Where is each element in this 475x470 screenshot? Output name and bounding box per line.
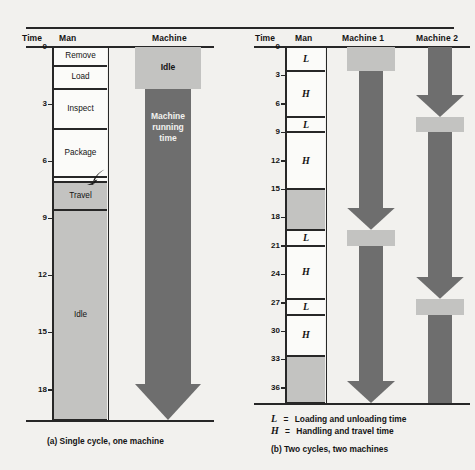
man-segment-label: L (303, 54, 309, 64)
man-segment-label: Inspect (67, 105, 93, 113)
legend-equals-1: = (285, 426, 290, 436)
man-segment: L (287, 47, 326, 71)
axis-tick-label: 6 (254, 99, 280, 108)
machine2-idle-block (416, 117, 464, 132)
axis-tick-label: 9 (254, 127, 280, 136)
man-segment: Travel (54, 182, 108, 210)
panel-a-single-cycle: Time Man Machine 0369121518RemoveLoadIns… (0, 0, 238, 470)
axis-tick-label: 0 (21, 42, 47, 51)
axis-tick-label: 18 (254, 212, 280, 221)
man-segment (287, 189, 326, 230)
axis-tick-label: 9 (21, 213, 47, 222)
machine2-idle-block (416, 299, 464, 315)
panel-a-caption: (a) Single cycle, one machine (47, 436, 164, 446)
axis-tick-label: 24 (254, 269, 280, 278)
axis-tick-label: 12 (21, 270, 47, 279)
axis-tick-label: 21 (254, 241, 280, 250)
man-segment: H (287, 71, 326, 117)
legend-symbol-L: L (271, 413, 277, 424)
machine1-run-shaft (359, 71, 383, 208)
axis-tick-label: 15 (21, 327, 47, 336)
machine1-idle-block (347, 230, 395, 246)
legend-text-1: Handling and travel time (296, 426, 393, 436)
figure-canvas: Time Man Machine 0369121518RemoveLoadIns… (0, 0, 475, 470)
axis-tick-label: 3 (254, 70, 280, 79)
man-segment-label: Travel (69, 192, 91, 200)
axis-tick-label: 3 (21, 99, 47, 108)
machine2-arrowhead (416, 277, 464, 299)
machine2-run-shaft (428, 315, 452, 403)
man-segment-label: Remove (65, 52, 96, 60)
man-segment: Inspect (54, 89, 108, 129)
machine2-run-shaft (428, 47, 452, 95)
man-segment: H (287, 246, 326, 299)
panel-b-plot: 0369121518212427303336LHLHLHLH (238, 0, 475, 470)
man-segment-label: H (302, 267, 310, 277)
man-segment-label: L (303, 302, 309, 312)
panel-b-caption: (b) Two cycles, two machines (271, 444, 388, 454)
man-segment: Idle (54, 210, 108, 420)
man-segment-label: L (303, 233, 309, 243)
man-segment-label: H (302, 89, 310, 99)
axis-tick-label: 27 (254, 298, 280, 307)
axis-tick-label: 33 (254, 354, 280, 363)
man-segment-label: L (303, 120, 309, 130)
machine2-run-shaft (428, 132, 452, 277)
man-segment-label: Load (71, 73, 89, 81)
axis-tick-label: 36 (254, 383, 280, 392)
machine1-arrowhead (347, 381, 395, 403)
axis-tick-label: 0 (254, 42, 280, 51)
man-segment: Load (54, 66, 108, 89)
man-segment: L (287, 299, 326, 315)
panel-b-two-cycles: Time Man Machine 1 Machine 2 03691215182… (238, 0, 475, 470)
legend-symbol-H: H (271, 425, 279, 436)
machine2-arrowhead (416, 95, 464, 117)
machine-block-label: Idle (128, 62, 208, 73)
man-segment-label: Idle (74, 311, 87, 319)
axis-tick-label: 15 (254, 184, 280, 193)
man-segment: L (287, 230, 326, 246)
man-segment: Remove (54, 47, 108, 66)
man-segment: H (287, 315, 326, 356)
man-segment: H (287, 132, 326, 189)
axis-tick-label: 18 (21, 385, 47, 394)
man-segment: L (287, 117, 326, 132)
machine1-idle-block (347, 47, 395, 71)
panel-a-plot: 0369121518RemoveLoadInspectPackageTravel… (0, 0, 238, 470)
machine1-run-shaft (359, 246, 383, 381)
machine1-arrowhead (347, 208, 395, 230)
legend-equals-0: = (283, 414, 288, 424)
axis-tick-label: 30 (254, 326, 280, 335)
legend-row-0: L = Loading and unloading time (271, 413, 406, 424)
axis-tick-label: 6 (21, 156, 47, 165)
man-segment-label: H (302, 156, 310, 166)
travel-pointer-arrow (84, 168, 106, 186)
axis-tick-label: 12 (254, 156, 280, 165)
man-segment-label: H (302, 330, 310, 340)
man-segment-label: Package (65, 149, 97, 157)
legend-row-1: H = Handling and travel time (271, 425, 394, 436)
machine-block-label: Machine running time (128, 111, 208, 144)
machine-arrowhead (135, 384, 201, 420)
legend-text-0: Loading and unloading time (295, 414, 407, 424)
man-segment (287, 356, 326, 403)
